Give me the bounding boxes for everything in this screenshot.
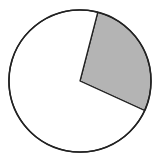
pie-chart bbox=[0, 0, 155, 162]
